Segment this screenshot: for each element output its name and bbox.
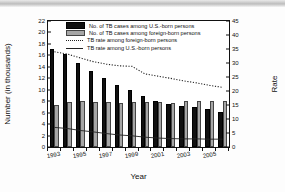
y-tick-mark-6	[48, 112, 51, 113]
y-tick-mark-4	[48, 124, 51, 125]
y2-tick-label-15: 15	[229, 102, 239, 108]
y-tick-mark-12	[48, 78, 51, 79]
y-tick-label-20: 20	[38, 29, 48, 35]
line-rate-us-born	[54, 127, 222, 139]
x-tick-label-2001: 2001	[150, 151, 164, 159]
secondary-y-axis-title-text: Rate	[270, 76, 279, 93]
legend-item-2: TB rate among foreign-born persons	[66, 37, 218, 44]
y-tick-label-22: 22	[38, 18, 48, 24]
secondary-y-axis-title: Rate	[268, 20, 280, 148]
x-tick-label-2005: 2005	[202, 151, 216, 159]
y-tick-label-14: 14	[38, 64, 48, 70]
legend-swatch-1	[66, 30, 85, 37]
x-tick-label-1999: 1999	[124, 151, 138, 159]
x-tick-mark-8	[150, 148, 151, 151]
y2-tick-label-40: 40	[229, 32, 239, 38]
x-axis-title: Year	[47, 172, 230, 181]
x-tick-label-1995: 1995	[73, 151, 87, 159]
y-tick-mark-20	[48, 32, 51, 33]
y2-tick-label-45: 45	[229, 18, 239, 24]
y-axis-title: Number (in thousands)	[2, 20, 12, 148]
y-tick-mark-18	[48, 43, 51, 44]
x-tick-mark-6	[125, 148, 126, 151]
y-tick-label-16: 16	[38, 52, 48, 58]
x-tick-label-2003: 2003	[176, 151, 190, 159]
legend-swatch-2	[66, 37, 83, 44]
y-tick-label-12: 12	[38, 75, 48, 81]
y2-tick-label-10: 10	[229, 116, 239, 122]
y-tick-label-18: 18	[38, 41, 48, 47]
x-tick-mark-2	[73, 148, 74, 151]
top-border-strip	[0, 0, 285, 7]
legend-label-1: No. of TB cases among foreign-born perso…	[89, 30, 201, 36]
x-axis-ticks: 1993199519971999200120032005	[47, 148, 230, 162]
y-tick-mark-22	[48, 21, 51, 22]
y2-tick-label-30: 30	[229, 60, 239, 66]
y2-tick-label-35: 35	[229, 46, 239, 52]
y2-tick-mark-30	[226, 63, 229, 64]
line-rate-foreign-born	[54, 52, 222, 88]
y-tick-mark-16	[48, 55, 51, 56]
y2-tick-label-5: 5	[229, 130, 235, 136]
y2-tick-mark-25	[226, 77, 229, 78]
y2-tick-mark-40	[226, 35, 229, 36]
legend-label-3: TB rate among U.S.-born persons	[87, 45, 171, 51]
x-tick-mark-5	[112, 148, 113, 151]
y2-tick-mark-35	[226, 49, 229, 50]
x-tick-mark-10	[176, 148, 177, 151]
y2-tick-mark-45	[226, 21, 229, 22]
x-tick-label-1997: 1997	[99, 151, 113, 159]
x-tick-mark-4	[99, 148, 100, 151]
y-tick-mark-8	[48, 101, 51, 102]
y2-tick-mark-20	[226, 91, 229, 92]
x-tick-mark-12	[202, 148, 203, 151]
chart-legend: No. of TB cases among U.S.-born personsN…	[66, 22, 218, 52]
legend-item-0: No. of TB cases among U.S.-born persons	[66, 22, 218, 29]
y2-tick-mark-5	[226, 133, 229, 134]
y2-tick-label-20: 20	[229, 88, 239, 94]
legend-swatch-3	[66, 44, 83, 51]
y2-tick-label-25: 25	[229, 74, 239, 80]
x-tick-mark-0	[47, 148, 48, 151]
y-tick-mark-10	[48, 89, 51, 90]
chart-figure: Number (in thousands) Rate 0246810121416…	[0, 0, 285, 192]
x-tick-mark-3	[86, 148, 87, 151]
legend-item-1: No. of TB cases among foreign-born perso…	[66, 29, 218, 36]
legend-label-2: TB rate among foreign-born persons	[87, 37, 177, 43]
y-tick-mark-14	[48, 66, 51, 67]
x-tick-mark-14	[228, 148, 229, 151]
y-tick-label-10: 10	[38, 87, 48, 93]
y2-tick-mark-15	[226, 105, 229, 106]
x-tick-label-1993: 1993	[47, 151, 61, 159]
y-axis-title-text: Number (in thousands)	[3, 43, 12, 124]
legend-item-3: TB rate among U.S.-born persons	[66, 44, 218, 51]
y-tick-mark-2	[48, 135, 51, 136]
y2-tick-mark-10	[226, 119, 229, 120]
x-tick-mark-1	[60, 148, 61, 151]
legend-swatch-0	[66, 22, 85, 29]
legend-label-0: No. of TB cases among U.S.-born persons	[89, 23, 194, 29]
